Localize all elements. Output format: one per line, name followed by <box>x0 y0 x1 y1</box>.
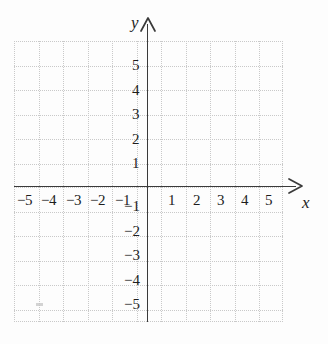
grid-line-vertical <box>186 41 188 322</box>
y-axis-tick-label: 4 <box>132 83 140 98</box>
y-axis-tick-label: −3 <box>124 248 140 263</box>
grid-line-vertical <box>88 41 90 322</box>
x-axis-tick-label: −4 <box>41 193 56 208</box>
grid-line-horizontal <box>14 236 283 238</box>
x-axis-tick-label: 5 <box>265 193 273 208</box>
grid-line-vertical <box>282 41 284 322</box>
y-axis-name: y <box>131 14 139 31</box>
grid-line-horizontal <box>14 261 283 263</box>
grid-line-horizontal <box>14 310 283 312</box>
grid-line-horizontal <box>14 164 283 166</box>
grid-line-horizontal <box>14 41 283 43</box>
grid-line-vertical <box>39 41 41 322</box>
x-axis-tick-label: 1 <box>168 193 176 208</box>
coordinate-plane-figure: y x −5−4−3−2−11234554321−1−2−3−4−5 <box>0 0 328 344</box>
grid-line-vertical <box>112 41 114 322</box>
grid-line-horizontal <box>14 139 283 141</box>
y-axis-tick-label: −4 <box>124 273 140 288</box>
grid-line-horizontal <box>14 285 283 287</box>
grid-line-vertical <box>210 41 212 322</box>
x-axis-tick-label: 4 <box>241 193 249 208</box>
grid-line-vertical <box>14 41 16 322</box>
y-axis-tick-label: 2 <box>132 132 140 147</box>
x-axis-tick-label: 3 <box>217 193 225 208</box>
grid-line-horizontal <box>14 66 283 68</box>
grid-line-vertical <box>63 41 65 322</box>
arrow-up-icon <box>138 16 158 32</box>
grid-line-horizontal <box>14 187 283 189</box>
grid-line-vertical <box>161 41 163 322</box>
x-axis-line <box>14 186 296 187</box>
y-axis-tick-label: −2 <box>124 224 140 239</box>
x-axis-tick-label: −2 <box>90 193 105 208</box>
x-axis-tick-label: −3 <box>66 193 81 208</box>
y-axis-tick-label: 1 <box>132 156 140 171</box>
scan-artifact-smudge <box>36 303 43 306</box>
x-axis-tick-label: −5 <box>17 193 32 208</box>
x-axis-tick-label: 2 <box>193 193 201 208</box>
y-axis-tick-label: −5 <box>124 297 140 312</box>
y-axis-tick-label: 5 <box>132 58 140 73</box>
grid-line-horizontal <box>14 321 283 323</box>
y-axis-line <box>147 24 148 322</box>
grid-line-horizontal <box>14 115 283 117</box>
y-axis-tick-label: −1 <box>124 199 140 214</box>
y-axis-tick-label: 3 <box>132 107 140 122</box>
grid-area <box>14 41 283 322</box>
grid-line-vertical <box>235 41 237 322</box>
grid-line-vertical <box>259 41 261 322</box>
grid-line-horizontal <box>14 90 283 92</box>
x-axis-name: x <box>302 194 310 211</box>
grid-line-horizontal <box>14 212 283 214</box>
